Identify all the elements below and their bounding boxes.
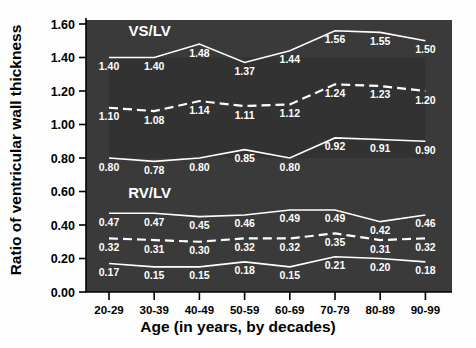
data-label: 1.10 — [99, 110, 120, 122]
data-label: 0.49 — [325, 212, 346, 224]
y-tick-label: 1.20 — [51, 85, 75, 99]
y-tick-label: 1.00 — [51, 118, 75, 132]
x-tick-layer: 20-2930-3940-4950-5960-6970-7980-8990-99 — [94, 292, 440, 316]
data-label: 1.40 — [99, 60, 120, 72]
data-label: 1.08 — [144, 114, 165, 126]
data-label: 0.80 — [189, 161, 210, 173]
data-label: 0.46 — [415, 217, 436, 229]
data-label: 1.23 — [370, 88, 391, 100]
y-tick-label: 0.00 — [51, 286, 75, 300]
data-label: 1.44 — [280, 53, 301, 65]
data-label: 0.91 — [370, 142, 391, 154]
data-label: 0.47 — [99, 216, 120, 228]
x-tick-label-90-99: 90-99 — [411, 304, 440, 316]
y-tick-label: 0.60 — [51, 185, 75, 199]
x-tick-label-40-49: 40-49 — [185, 304, 214, 316]
data-label: 0.32 — [415, 241, 436, 253]
x-tick-label-50-59: 50-59 — [230, 304, 259, 316]
data-label: 1.56 — [325, 33, 346, 45]
x-tick-label-20-29: 20-29 — [94, 304, 123, 316]
data-label: 1.12 — [280, 107, 301, 119]
data-label: 0.92 — [325, 140, 346, 152]
data-label: 0.85 — [234, 152, 255, 164]
data-label: 0.32 — [99, 241, 120, 253]
y-tick-label: 1.40 — [51, 51, 75, 65]
data-label: 0.90 — [415, 144, 436, 156]
y-tick-layer: 0.000.200.400.600.801.001.201.401.60 — [51, 18, 86, 300]
y-tick-label: 0.80 — [51, 152, 75, 166]
data-label: 0.46 — [234, 217, 255, 229]
data-label: 0.31 — [144, 243, 165, 255]
data-label: 0.15 — [189, 269, 210, 281]
data-label: 0.80 — [99, 161, 120, 173]
data-label: 0.47 — [144, 216, 165, 228]
chart-figure: VS/LVRV/LV 1.401.401.481.371.441.561.551… — [0, 0, 476, 348]
data-label: 1.11 — [235, 109, 255, 121]
data-label: 1.50 — [415, 43, 436, 55]
data-label: 0.32 — [234, 241, 255, 253]
data-label: 0.49 — [280, 212, 301, 224]
group-annotation: RV/LV — [128, 184, 171, 201]
x-tick-label-30-39: 30-39 — [139, 304, 168, 316]
data-label: 1.20 — [415, 94, 436, 106]
y-tick-label: 1.60 — [51, 18, 75, 32]
data-label: 0.35 — [325, 236, 346, 248]
data-label: 0.32 — [280, 241, 301, 253]
data-label: 0.18 — [234, 264, 255, 276]
group-annotation: VS/LV — [129, 22, 171, 39]
data-label: 0.42 — [370, 224, 391, 236]
data-label: 0.21 — [325, 259, 346, 271]
data-label: 0.45 — [189, 219, 210, 231]
data-label: 0.18 — [415, 264, 436, 276]
data-label: 1.48 — [189, 47, 210, 59]
data-label: 1.40 — [144, 60, 165, 72]
y-tick-label: 0.20 — [51, 252, 75, 266]
x-axis-title: Age (in years, by decades) — [0, 318, 476, 336]
y-tick-label: 0.40 — [51, 219, 75, 233]
data-label: 0.20 — [370, 261, 391, 273]
data-label: 1.55 — [370, 35, 391, 47]
x-tick-label-80-89: 80-89 — [365, 304, 394, 316]
data-label: 0.31 — [370, 243, 391, 255]
data-label: 0.80 — [280, 161, 301, 173]
data-label: 0.15 — [280, 269, 301, 281]
data-label: 1.24 — [325, 87, 346, 99]
data-label: 0.30 — [189, 244, 210, 256]
x-tick-label-60-69: 60-69 — [275, 304, 304, 316]
data-label: 0.15 — [144, 269, 165, 281]
x-tick-label-70-79: 70-79 — [320, 304, 349, 316]
data-label: 1.37 — [234, 65, 255, 77]
data-label: 0.17 — [99, 266, 120, 278]
data-label: 1.14 — [189, 104, 210, 116]
chart-canvas: VS/LVRV/LV 1.401.401.481.371.441.561.551… — [0, 0, 476, 348]
plot-area-background — [86, 20, 452, 292]
data-label: 0.78 — [144, 164, 165, 176]
